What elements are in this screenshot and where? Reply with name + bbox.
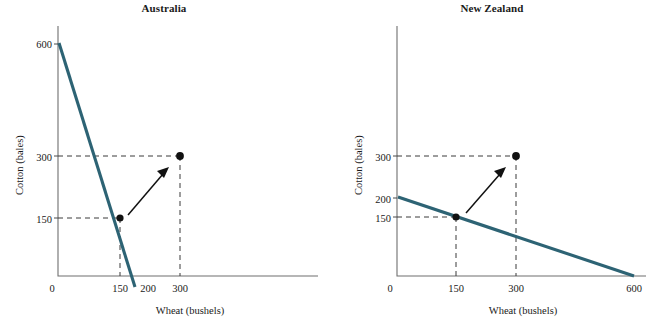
gains-arrow-head-newzealand (494, 167, 506, 178)
axis-lines-australia (58, 26, 318, 276)
gains-arrow-shaft-australia (128, 174, 163, 215)
consumption-point-newzealand (512, 152, 520, 160)
xaxis-title-newzealand: Wheat (bushels) (489, 305, 558, 316)
ytick-label-150-australia: 150 (22, 214, 52, 225)
gains-arrow-head-australia (157, 167, 169, 178)
ytick-label-600-australia: 600 (22, 39, 52, 50)
two-panel-ppf-figure: Australia 600 300 150 0 (0, 0, 656, 327)
xtick-label-300-newzealand: 300 (508, 283, 524, 294)
ppf-line-australia (59, 43, 135, 287)
production-point-newzealand (452, 213, 459, 220)
ytick-label-300-newzealand: 300 (361, 152, 391, 163)
ytick-label-150-newzealand: 150 (361, 213, 391, 224)
xtick-label-0-newzealand: 0 (387, 283, 392, 294)
plot-area-newzealand (328, 0, 656, 327)
chart-panel-australia: Australia 600 300 150 0 (0, 0, 328, 327)
xtick-label-300-australia: 300 (172, 283, 188, 294)
xaxis-title-australia: Wheat (bushels) (156, 305, 225, 316)
yaxis-title-newzealand: Cotton (bales) (353, 135, 364, 195)
chart-panel-newzealand: New Zealand 300 200 150 (328, 0, 656, 327)
production-point-australia (116, 214, 123, 221)
xtick-label-0-australia: 0 (49, 283, 54, 294)
xtick-label-600-newzealand: 600 (626, 283, 642, 294)
xtick-label-150-australia: 150 (112, 283, 128, 294)
gains-arrow-shaft-newzealand (466, 174, 500, 213)
xtick-label-200-australia: 200 (140, 283, 156, 294)
yaxis-title-australia: Cotton (bales) (14, 135, 25, 195)
xtick-label-150-newzealand: 150 (448, 283, 464, 294)
ytick-label-200-newzealand: 200 (361, 194, 391, 205)
ytick-label-300-australia: 300 (22, 152, 52, 163)
consumption-point-australia (176, 152, 184, 160)
